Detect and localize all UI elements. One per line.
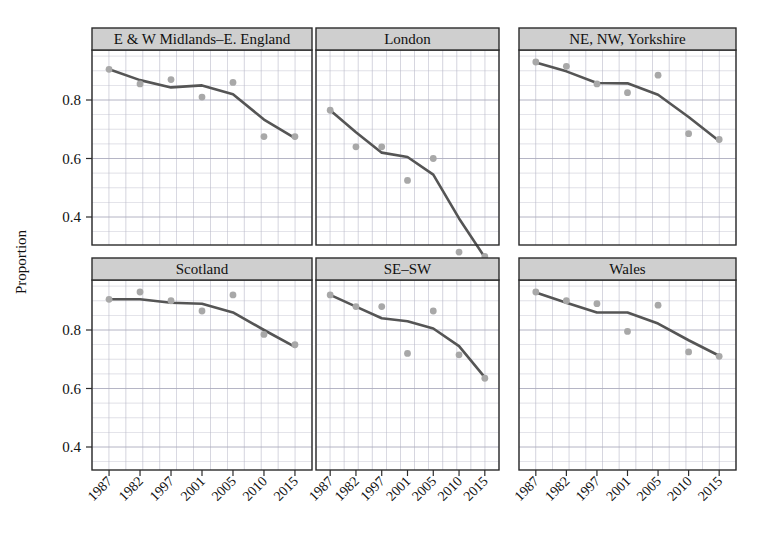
x-axis-tick-label: 1982 (332, 474, 362, 504)
panel-strip-label: Wales (609, 261, 645, 277)
panel-background (316, 50, 499, 245)
data-point (624, 89, 631, 96)
panel-5: SE–SW1987198219972001200520102015 (306, 258, 499, 504)
data-point (430, 155, 437, 162)
data-point (261, 133, 268, 140)
y-axis-tick-label: 0.4 (62, 439, 81, 455)
chart-canvas: E & W Midlands–E. EnglandLondonNE, NW, Y… (0, 0, 759, 551)
panel-4: Scotland1987198219972001200520102015 (85, 258, 312, 504)
x-axis-tick-label: 2001 (603, 474, 633, 504)
data-point (327, 292, 334, 299)
data-point (456, 249, 463, 256)
panel-background (316, 280, 499, 470)
data-point (199, 94, 206, 101)
x-axis-tick-label: 1987 (85, 474, 115, 504)
data-point (624, 328, 631, 335)
panel-strip-label: Scotland (176, 261, 229, 277)
data-point (456, 351, 463, 358)
x-axis-tick-label: 1987 (306, 474, 336, 504)
data-point (685, 130, 692, 137)
data-point (327, 107, 334, 114)
panel-1: E & W Midlands–E. England (92, 28, 312, 245)
data-point (563, 63, 570, 70)
faceted-line-chart: E & W Midlands–E. EnglandLondonNE, NW, Y… (0, 0, 759, 551)
data-point (292, 341, 299, 348)
data-point (378, 303, 385, 310)
data-point (261, 331, 268, 338)
data-point (655, 72, 662, 79)
x-axis-tick-label: 2001 (178, 474, 208, 504)
data-point (353, 143, 360, 150)
x-axis-tick-label: 2005 (634, 474, 664, 504)
data-point (168, 297, 175, 304)
x-axis-tick-label: 2010 (664, 474, 694, 504)
data-point (230, 292, 237, 299)
data-point (378, 143, 385, 150)
panel-strip-label: London (384, 31, 431, 47)
data-point (716, 136, 723, 143)
y-axis-tick-label: 0.6 (62, 151, 81, 167)
x-axis-tick-label: 1997 (147, 474, 177, 504)
x-axis-tick-label: 1997 (357, 474, 387, 504)
data-point (481, 375, 488, 382)
panel-background (519, 280, 736, 470)
data-point (404, 350, 411, 357)
x-axis-tick-label: 1987 (512, 474, 542, 504)
data-point (353, 303, 360, 310)
data-point (532, 289, 539, 296)
data-point (106, 66, 113, 73)
y-axis-tick-label: 0.8 (62, 322, 81, 338)
data-point (168, 76, 175, 83)
data-point (430, 308, 437, 315)
x-axis-tick-label: 2015 (461, 474, 491, 504)
x-axis-tick-label: 2010 (435, 474, 465, 504)
data-point (199, 308, 206, 315)
y-axis-title: Proportion (13, 229, 29, 294)
data-point (594, 300, 601, 307)
panel-background (519, 50, 736, 245)
panel-3: NE, NW, Yorkshire (519, 28, 736, 245)
data-point (106, 296, 113, 303)
data-point (716, 353, 723, 360)
panel-strip-label: E & W Midlands–E. England (114, 31, 291, 47)
data-point (404, 177, 411, 184)
data-point (594, 81, 601, 88)
x-axis-tick-label: 2005 (209, 474, 239, 504)
data-point (563, 297, 570, 304)
data-point (137, 289, 144, 296)
x-axis-tick-label: 2015 (271, 474, 301, 504)
x-axis-tick-label: 2010 (240, 474, 270, 504)
data-point (137, 81, 144, 88)
x-axis-tick-label: 1982 (116, 474, 146, 504)
x-axis-tick-label: 2001 (383, 474, 413, 504)
panel-strip-label: SE–SW (384, 261, 432, 277)
y-axis-tick-label: 0.4 (62, 209, 81, 225)
panel-strip-label: NE, NW, Yorkshire (569, 31, 686, 47)
y-axis-tick-label: 0.8 (62, 92, 81, 108)
data-point (532, 59, 539, 66)
x-axis-tick-label: 1997 (573, 474, 603, 504)
data-point (685, 349, 692, 356)
data-point (655, 302, 662, 309)
data-point (230, 79, 237, 86)
data-point (292, 133, 299, 140)
panel-background (92, 50, 312, 245)
x-axis-tick-label: 2015 (695, 474, 725, 504)
x-axis-tick-label: 1982 (542, 474, 572, 504)
x-axis-tick-label: 2005 (409, 474, 439, 504)
panel-6: Wales1987198219972001200520102015 (512, 258, 736, 504)
panel-2: London (316, 28, 499, 260)
y-axis-tick-label: 0.6 (62, 381, 81, 397)
